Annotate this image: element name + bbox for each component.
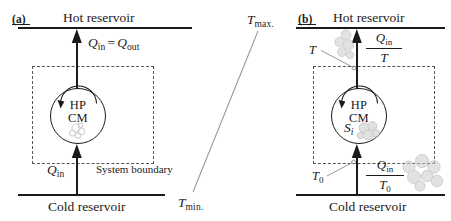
panel-b-temp-bottom-leader [327,163,353,177]
figure-root: (a) Hot reservoir Qin=Qout HP CM [0,0,451,221]
panel-b-cold-reservoir-line [296,194,445,196]
panel-b-temp-bottom-symbol: T [312,169,319,183]
panel-b-bottom-bubble-cluster [403,154,443,191]
panel-b-cold-reservoir-label: Cold reservoir [329,200,407,214]
panel-b-temp-bottom-leader-dot [352,160,356,164]
panel-b-temp-bottom-label: T0 [312,170,323,185]
panel-b-bottom-annotations [0,0,451,221]
panel-b-temp-bottom-subscript: 0 [319,175,324,185]
